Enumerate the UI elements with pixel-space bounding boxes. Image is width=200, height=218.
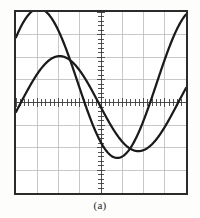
figure-caption: (a) [0,198,200,212]
figure-container: (a) [0,0,200,218]
minor-tick-marks [16,12,186,193]
graticule [16,12,186,193]
oscilloscope-screen[interactable] [14,10,188,195]
